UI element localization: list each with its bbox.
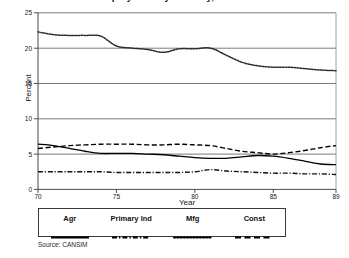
legend-item-mfg[interactable]: Mfg [162,214,224,231]
legend-swatch-dash-dot [111,226,151,231]
legend: AgrPrimary IndMfgConst [38,208,286,237]
legend-label: Mfg [186,214,199,223]
series-line-const [38,144,336,154]
legend-swatch-solid [50,226,90,231]
y-tick-label-25: 25 [12,9,32,16]
legend-item-primary-ind[interactable]: Primary Ind [101,214,163,231]
legend-swatch-dashed [234,226,274,231]
y-tick-label-5: 5 [12,151,32,158]
y-axis-label: Percent [24,58,33,118]
x-tick-marks [38,189,336,193]
legend-item-agr[interactable]: Agr [39,214,101,231]
legend-swatch-dotted [173,226,213,231]
y-tick-label-15: 15 [12,80,32,87]
series-line-primary-ind [38,170,336,175]
y-tick-label-20: 20 [12,45,32,52]
x-tick-label-85: 85 [263,193,283,200]
y-tick-label-0: 0 [12,186,32,193]
grid-lines [38,13,336,154]
x-tick-label-80: 80 [185,193,205,200]
y-tick-label-10: 10 [12,115,32,122]
legend-label: Agr [63,214,76,223]
legend-item-const[interactable]: Const [224,214,286,231]
x-tick-label-70: 70 [28,193,48,200]
x-tick-label-75: 75 [106,193,126,200]
legend-label: Const [244,214,265,223]
series-line-mfg [38,32,336,71]
series-lines [38,32,336,175]
source-note: Source: CANSIM [38,241,88,248]
axis-frame [38,13,336,190]
y-tick-marks [34,13,38,190]
chart-figure: Employment by Industry, Canada Percent Y… [0,0,349,258]
x-tick-label-89: 89 [326,193,346,200]
legend-label: Primary Ind [111,214,152,223]
